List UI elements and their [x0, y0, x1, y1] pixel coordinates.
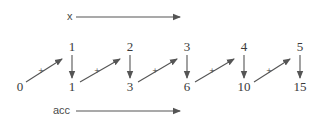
x-value: 5 [297, 39, 304, 54]
plus-icon: + [94, 65, 100, 76]
acc-value: 0 [17, 79, 24, 94]
acc-value: 15 [294, 79, 307, 94]
plus-operators: + + + + + [38, 65, 272, 76]
acc-value: 3 [127, 79, 134, 94]
x-values-row: 1 2 3 4 5 [69, 39, 304, 54]
acc-value: 10 [238, 79, 251, 94]
x-value: 4 [241, 39, 248, 54]
plus-icon: + [266, 65, 272, 76]
acc-value: 6 [184, 79, 191, 94]
x-value: 3 [184, 39, 191, 54]
x-label: x [67, 10, 73, 22]
x-value: 1 [69, 39, 76, 54]
scan-diagram: x 1 2 3 4 5 0 1 3 6 10 15 + + + + + [0, 0, 324, 127]
acc-value: 1 [69, 79, 76, 94]
x-value: 2 [127, 39, 134, 54]
plus-icon: + [38, 65, 44, 76]
acc-values-row: 0 1 3 6 10 15 [17, 79, 307, 94]
diagonal-arrow-icon [254, 59, 290, 82]
acc-label: acc [53, 104, 71, 116]
plus-icon: + [209, 65, 215, 76]
plus-icon: + [152, 65, 158, 76]
diagonal-arrow-icon [80, 59, 120, 82]
diagonal-arrow-icon [26, 59, 62, 82]
